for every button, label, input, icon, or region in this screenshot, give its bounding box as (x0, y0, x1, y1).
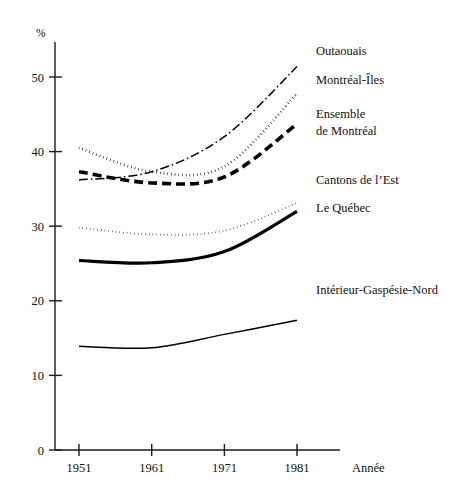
y-tick-label-40: 40 (32, 145, 45, 159)
y-tick-label-10: 10 (32, 369, 45, 383)
x-tick-label-1981: 1981 (285, 461, 310, 475)
line-chart-svg: 0 10 20 30 40 50 % 1951 1961 1971 1981 A… (0, 0, 452, 494)
chart-figure: 0 10 20 30 40 50 % 1951 1961 1971 1981 A… (0, 0, 452, 494)
y-tick-label-0: 0 (38, 444, 44, 458)
series-path-outaouais (79, 67, 297, 180)
series-label-outaouais: Outaouais (316, 44, 367, 58)
y-axis-unit-label: % (36, 27, 46, 39)
series-label-le-quebec: Le Québec (316, 201, 371, 215)
series-path-interieur-gaspesie-nord (79, 320, 297, 348)
y-tick-label-20: 20 (32, 294, 45, 308)
series-label-ensemble-de-montreal-line1: Ensemble (316, 107, 366, 121)
series-label-ensemble-de-montreal-line2: de Montréal (316, 124, 377, 138)
y-tick-label-30: 30 (32, 220, 45, 234)
series-path-ensemble-de-montreal (79, 124, 297, 184)
x-axis-title: Année (352, 461, 385, 475)
series-path-le-quebec (79, 211, 297, 263)
x-tick-label-1961: 1961 (139, 461, 164, 475)
y-tick-label-50: 50 (32, 71, 45, 85)
series-group (79, 67, 297, 349)
series-label-interieur-gaspesie-nord: Intérieur-Gaspésie-Nord (316, 283, 439, 297)
series-label-cantons-de-l-est: Cantons de l’Est (316, 173, 399, 187)
series-path-montreal-iles (79, 93, 297, 175)
x-tick-label-1951: 1951 (67, 461, 92, 475)
x-tick-label-1971: 1971 (212, 461, 237, 475)
series-label-montreal-iles: Montréal-Îles (316, 73, 384, 87)
